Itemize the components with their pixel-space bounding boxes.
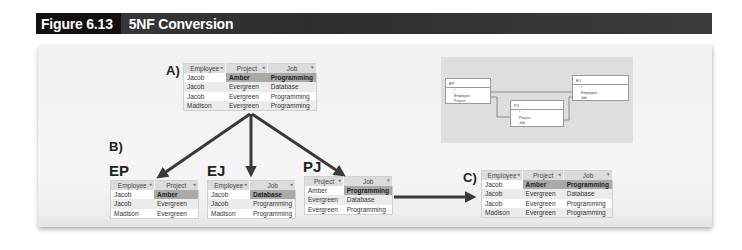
arrow-icon [252, 114, 342, 174]
arrow-icon [160, 114, 250, 176]
decomposition-arrows [0, 0, 742, 250]
